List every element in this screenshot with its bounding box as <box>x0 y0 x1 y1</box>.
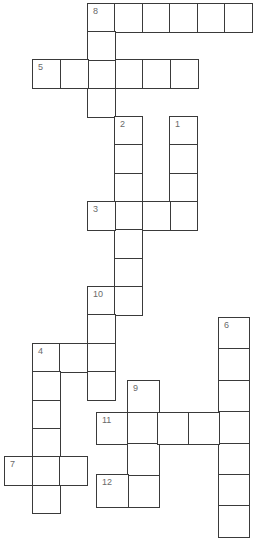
crossword-cell[interactable] <box>115 59 144 89</box>
crossword-cell[interactable]: 7 <box>4 456 33 486</box>
crossword-cell[interactable] <box>188 412 220 445</box>
clue-number: 6 <box>224 321 229 330</box>
crossword-cell[interactable] <box>127 443 160 476</box>
crossword-cell[interactable] <box>87 31 116 61</box>
crossword-cell[interactable]: 2 <box>114 116 143 146</box>
clue-number: 5 <box>38 63 43 72</box>
crossword-cell[interactable] <box>169 173 198 203</box>
crossword-cell[interactable] <box>114 258 143 288</box>
clue-number: 10 <box>93 290 103 299</box>
crossword-cell[interactable] <box>218 411 250 444</box>
crossword-cell[interactable] <box>87 314 116 344</box>
crossword-cell[interactable] <box>59 456 88 486</box>
crossword-cell[interactable] <box>114 201 143 231</box>
crossword-cell[interactable] <box>169 3 198 33</box>
clue-number: 4 <box>38 347 43 356</box>
crossword-cell[interactable] <box>87 371 116 401</box>
crossword-cell[interactable]: 9 <box>127 380 160 413</box>
crossword-cell[interactable] <box>142 201 171 231</box>
crossword-cell[interactable] <box>60 59 89 89</box>
crossword-cell[interactable] <box>218 348 250 381</box>
clue-number: 12 <box>102 478 112 487</box>
crossword-cell[interactable] <box>127 475 160 508</box>
crossword-cell[interactable] <box>157 412 189 445</box>
clue-number: 8 <box>93 7 98 16</box>
clue-number: 11 <box>102 416 111 425</box>
crossword-cell[interactable] <box>218 380 250 413</box>
clue-number: 9 <box>133 384 138 393</box>
crossword-cell[interactable] <box>114 173 143 203</box>
crossword-cell[interactable]: 12 <box>96 474 129 508</box>
crossword-cell[interactable] <box>114 144 143 174</box>
clue-number: 2 <box>120 120 125 129</box>
crossword-cell[interactable] <box>87 88 116 118</box>
crossword-cell[interactable]: 8 <box>87 3 116 33</box>
clue-number: 7 <box>10 460 15 469</box>
crossword-cell[interactable] <box>32 428 61 458</box>
crossword-cell[interactable] <box>87 60 116 90</box>
crossword-cell[interactable] <box>224 3 253 33</box>
crossword-cell[interactable] <box>32 485 61 515</box>
crossword-cell[interactable] <box>114 3 143 33</box>
crossword-cell[interactable]: 4 <box>32 343 61 373</box>
crossword-cell[interactable] <box>142 3 171 33</box>
crossword-cell[interactable]: 3 <box>87 201 116 231</box>
crossword-cell[interactable] <box>87 343 116 373</box>
crossword-cell[interactable] <box>142 59 171 89</box>
crossword-cell[interactable] <box>170 59 199 89</box>
crossword-cell[interactable]: 5 <box>32 59 61 89</box>
clue-number: 3 <box>93 205 98 214</box>
crossword-cell[interactable]: 11 <box>96 412 128 445</box>
crossword-cell[interactable] <box>197 3 226 33</box>
crossword-cell[interactable] <box>169 201 198 231</box>
crossword-cell[interactable] <box>114 286 143 316</box>
crossword-cell[interactable] <box>114 229 143 259</box>
crossword-cell[interactable] <box>32 371 61 401</box>
crossword-cell[interactable] <box>32 400 61 430</box>
crossword-cell[interactable]: 6 <box>218 317 250 350</box>
crossword-cell[interactable] <box>32 456 61 486</box>
crossword-cell[interactable] <box>218 443 250 476</box>
clue-number: 1 <box>175 120 180 129</box>
crossword-cell[interactable] <box>59 343 88 373</box>
crossword-cell[interactable]: 1 <box>169 116 198 146</box>
crossword-cell[interactable] <box>169 144 198 174</box>
crossword-cell[interactable] <box>218 505 250 538</box>
crossword-cell[interactable]: 10 <box>87 286 116 316</box>
crossword-cell[interactable] <box>127 412 160 445</box>
crossword-cell[interactable] <box>218 474 250 507</box>
